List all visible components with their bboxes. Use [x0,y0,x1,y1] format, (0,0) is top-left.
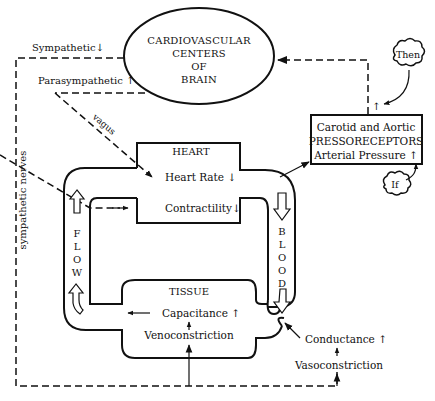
parasympathetic-label: Parasympathetic ↑ [38,75,134,86]
tissue-title: TISSUE [169,286,209,297]
vasoconstriction-label: Vasoconstriction [294,359,383,371]
cardiovascular-reflex-diagram: CARDIOVASCULAR CENTERS OF BRAIN Sympathe… [0,0,435,401]
svg-text:F: F [74,228,81,239]
svg-text:B: B [278,226,285,237]
conductance-arrow [285,323,300,338]
svg-text:L: L [74,241,81,252]
svg-text:O: O [278,252,286,263]
brain-label-line2: CENTERS [172,48,225,59]
heart-title: HEART [172,146,210,157]
conductance-label: Conductance ↑ [305,333,387,345]
flow-label: F L O W [72,228,83,278]
svg-text:O: O [278,265,286,276]
contractility-label: Contractility↓ [165,202,241,214]
blood-label: B L O O D [278,226,286,289]
vagus-label: vagus [90,111,118,137]
svg-text:W: W [72,267,83,278]
afferent-signal-path [278,60,368,114]
if-cloud: If [383,164,416,195]
heart-rate-label: Heart Rate ↓ [165,171,236,183]
venoconstriction-label: Venoconstriction [143,329,234,341]
sympathetic-label: Sympathetic↓ [32,42,104,53]
signal-increase-marker: ↑ [372,101,380,112]
flow-up-arrow-bottom [69,284,83,314]
svg-text:O: O [73,254,81,265]
sympathetic-nerves-label: sympathetic nerves [17,151,28,250]
receptor-line3: Arterial Pressure ↑ [313,149,418,161]
brain-label-line1: CARDIOVASCULAR [147,35,251,46]
svg-text:D: D [278,278,286,289]
receptor-line2: PRESSORECEPTORS [309,135,424,147]
svg-text:L: L [279,239,286,250]
blood-down-arrow-bottom [274,289,290,313]
blood-down-arrow-top [274,193,290,220]
flow-up-arrow-top [70,190,84,213]
pressoreceptors-node: Carotid and Aortic PRESSORECEPTORS Arter… [309,115,424,164]
then-label: Then [396,49,420,60]
brain-label-line4: BRAIN [181,74,217,85]
brain-label-line3: OF [191,61,207,72]
then-cloud: Then [384,39,425,105]
capacitance-label: Capacitance ↑ [162,307,240,319]
brain-centers-node: CARDIOVASCULAR CENTERS OF BRAIN [124,8,274,104]
receptor-line1: Carotid and Aortic [317,121,416,133]
